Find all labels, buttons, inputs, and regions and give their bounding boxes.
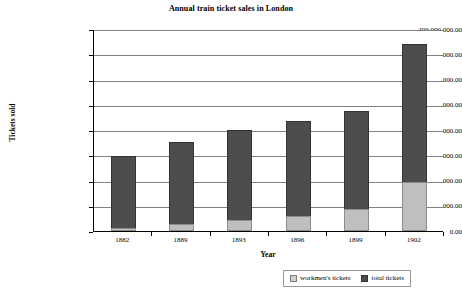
bar-group xyxy=(402,29,427,231)
legend-entry: total tickets xyxy=(361,275,403,282)
y-axis-title: Tickets sold xyxy=(8,93,17,153)
gridline xyxy=(94,81,444,82)
gridline xyxy=(94,106,444,107)
y-axis-tick-mark xyxy=(89,232,93,233)
chart-legend: workmen's ticketstotal tickets xyxy=(283,270,411,287)
x-axis-tick-label: 1889 xyxy=(151,236,211,244)
bar-segment-workmens-tickets xyxy=(344,209,369,231)
bar-segment-workmens-tickets xyxy=(227,220,252,231)
gridline xyxy=(94,182,444,183)
bar-segment-workmens-tickets xyxy=(111,228,136,231)
bar-segment-total-tickets xyxy=(286,121,311,231)
x-axis-tick-label: 1902 xyxy=(384,236,444,244)
gridline xyxy=(94,207,444,208)
legend-label: workmen's tickets xyxy=(300,275,350,282)
chart-figure: Annual train ticket sales in London Tick… xyxy=(0,0,462,293)
gridline xyxy=(94,156,444,157)
light-grey-swatch-icon xyxy=(290,275,297,282)
legend-entry: workmen's tickets xyxy=(290,275,350,282)
bar-segment-workmens-tickets xyxy=(169,224,194,231)
x-axis-tick-label: 1882 xyxy=(92,236,152,244)
bar-group xyxy=(286,29,311,231)
chart-title: Annual train ticket sales in London xyxy=(0,4,462,13)
x-axis-tick-label: 1899 xyxy=(326,236,386,244)
dark-grey-swatch-icon xyxy=(361,275,368,282)
legend-label: total tickets xyxy=(371,275,403,282)
plot-area xyxy=(93,30,443,232)
bar-segment-total-tickets xyxy=(111,156,136,231)
gridline xyxy=(94,131,444,132)
x-axis-tick-label: 1893 xyxy=(209,236,269,244)
gridline xyxy=(94,30,444,31)
gridline xyxy=(94,55,444,56)
bar-segment-total-tickets xyxy=(169,142,194,231)
bar-group xyxy=(169,29,194,231)
bar-segment-workmens-tickets xyxy=(402,182,427,231)
bar-segment-workmens-tickets xyxy=(286,216,311,231)
x-axis-title: Year xyxy=(93,250,443,259)
bar-segment-total-tickets xyxy=(227,130,252,231)
bar-group xyxy=(111,29,136,231)
bar-group xyxy=(344,29,369,231)
x-axis-tick-mark xyxy=(443,232,444,236)
x-axis-tick-label: 1896 xyxy=(267,236,327,244)
bar-group xyxy=(227,29,252,231)
